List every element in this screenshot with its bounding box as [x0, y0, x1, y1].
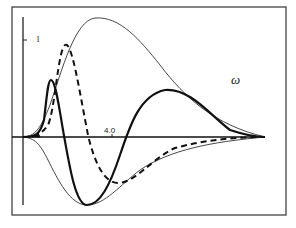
solid-curve — [23, 80, 265, 205]
envelope-curve-lower — [23, 137, 265, 205]
x-tick-label: 4.0 — [104, 126, 115, 135]
chart-frame — [12, 7, 286, 215]
y-tick-label: 1 — [36, 35, 40, 44]
envelope-curve — [23, 18, 265, 137]
omega-annotation: ω — [231, 72, 240, 88]
chart-canvas — [0, 0, 296, 228]
